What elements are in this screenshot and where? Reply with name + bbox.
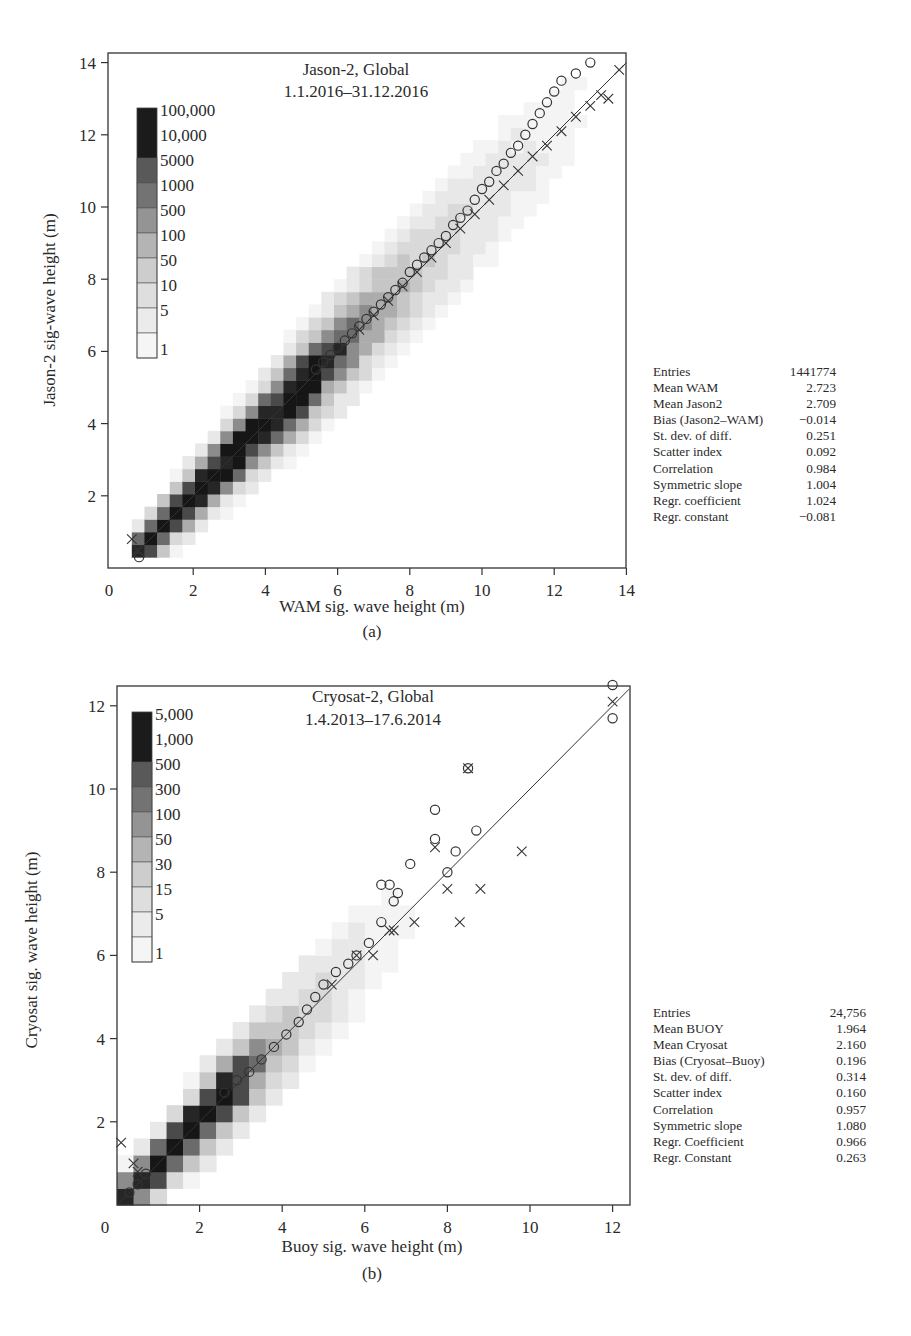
statistic-value: 1.024 [806, 493, 836, 509]
heatmap-cell [309, 418, 322, 431]
statistic-label: Scatter index [653, 444, 722, 460]
statistics-row: Symmetric slope1.080 [653, 1118, 866, 1134]
x-tick-label: 10 [522, 1218, 539, 1237]
colorbar-swatch [132, 937, 152, 962]
heatmap-cell [397, 241, 410, 254]
colorbar-label: 100,000 [160, 101, 215, 120]
colorbar-label: 100 [160, 226, 186, 245]
heatmap-cell [422, 203, 435, 216]
colorbar-swatch [132, 812, 152, 837]
heatmap-cell [309, 380, 322, 393]
x-tick-label: 8 [443, 1218, 452, 1237]
cross-marker [443, 884, 453, 894]
heatmap-cell [422, 216, 435, 229]
heatmap-cell [321, 380, 334, 393]
heatmap-cell [549, 115, 562, 128]
heatmap-cell [200, 1122, 217, 1139]
heatmap-cell [246, 481, 259, 494]
statistics-row: Scatter index0.092 [653, 444, 836, 460]
statistic-label: Mean Cryosat [653, 1037, 727, 1053]
heatmap-cell [385, 317, 398, 330]
heatmap-cell [511, 115, 524, 128]
colorbar-label: 300 [155, 780, 181, 799]
heatmap-cell [410, 229, 423, 242]
colorbar-swatch [132, 887, 152, 912]
heatmap-cell [216, 1072, 233, 1089]
heatmap-cell [233, 393, 246, 406]
heatmap-cell [233, 494, 246, 507]
heatmap-cell [134, 1138, 151, 1155]
heatmap-cell [498, 128, 511, 141]
statistics-row: Entries1441774 [653, 364, 836, 380]
heatmap-cell [448, 191, 461, 204]
heatmap-cell [117, 1172, 134, 1189]
heatmap-cell [385, 355, 398, 368]
heatmap-cells [117, 889, 415, 1206]
heatmap-cell [117, 1155, 134, 1172]
statistics-row: Correlation0.984 [653, 461, 836, 477]
heatmap-cell [296, 368, 309, 381]
cross-marker [116, 1138, 126, 1148]
heatmap-cell [397, 317, 410, 330]
heatmap-cell [299, 955, 316, 972]
colorbar-label: 50 [155, 830, 172, 849]
heatmap-cell [220, 469, 233, 482]
y-tick-label: 2 [97, 1113, 106, 1132]
heatmap-cell [332, 1005, 349, 1022]
colorbar-swatch [137, 283, 157, 308]
heatmap-cell [448, 292, 461, 305]
colorbar-legend: 100,00010,00050001000500100501051 [137, 101, 215, 359]
heatmap-cell [334, 406, 347, 419]
heatmap-cell [448, 178, 461, 191]
colorbar-label: 100 [155, 805, 181, 824]
heatmap-cell [246, 380, 259, 393]
y-tick-label: 10 [79, 198, 96, 217]
heatmap-cell [208, 431, 221, 444]
circle-marker [472, 826, 481, 835]
heatmap-cell [195, 456, 208, 469]
x-tick-label: 14 [618, 581, 636, 600]
heatmap-cell [150, 1188, 167, 1205]
statistic-value: 0.966 [836, 1134, 866, 1150]
heatmap-cell [266, 989, 283, 1006]
heatmap-cell [195, 469, 208, 482]
heatmap-cell [182, 507, 195, 520]
heatmap-cell [157, 494, 170, 507]
heatmap-cells [132, 77, 587, 558]
chart-subtitle: 1.4.2013–17.6.2014 [305, 710, 442, 729]
heatmap-cell [435, 191, 448, 204]
chart-subtitle: 1.1.2016–31.12.2016 [284, 82, 429, 101]
heatmap-cell [150, 1138, 167, 1155]
heatmap-cell [208, 494, 221, 507]
heatmap-cell [347, 304, 360, 317]
heatmap-cell [321, 418, 334, 431]
heatmap-cell [150, 1172, 167, 1189]
heatmap-cell [524, 203, 537, 216]
heatmap-cell [170, 481, 183, 494]
heatmap-cell [385, 304, 398, 317]
heatmap-cell [448, 279, 461, 292]
heatmap-cell [258, 469, 271, 482]
heatmap-cell [524, 178, 537, 191]
heatmap-cell [381, 939, 398, 956]
panel-caption: (b) [362, 1264, 382, 1283]
heatmap-cell [220, 494, 233, 507]
heatmap-cell [208, 456, 221, 469]
cross-marker [476, 884, 486, 894]
heatmap-cell [315, 1022, 332, 1039]
heatmap-cell [498, 115, 511, 128]
heatmap-cell [332, 1022, 349, 1039]
heatmap-cell [167, 1155, 184, 1172]
x-tick-label: 2 [189, 581, 198, 600]
heatmap-cell [435, 279, 448, 292]
heatmap-cell [422, 279, 435, 292]
heatmap-cell [309, 317, 322, 330]
heatmap-cell [397, 216, 410, 229]
heatmap-cell [150, 1122, 167, 1139]
heatmap-cell [473, 165, 486, 178]
heatmap-cell [233, 1022, 250, 1039]
heatmap-cell [283, 368, 296, 381]
heatmap-cell [348, 989, 365, 1006]
chart-title: Jason-2, Global [303, 60, 410, 79]
heatmap-cell [498, 140, 511, 153]
